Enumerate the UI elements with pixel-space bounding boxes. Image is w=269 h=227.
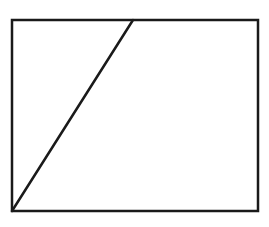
rectangle-shape bbox=[12, 20, 258, 211]
diagram-canvas bbox=[0, 0, 269, 227]
diagonal-line bbox=[12, 20, 133, 211]
